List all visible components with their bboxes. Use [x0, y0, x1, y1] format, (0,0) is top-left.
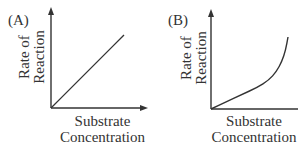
y-axis-arrow-icon — [48, 7, 54, 15]
y-axis-label-line1: Rate of — [17, 17, 32, 97]
data-line-a — [51, 35, 124, 108]
x-axis-label-line1: Substrate — [210, 113, 298, 129]
x-axis-label: Substrate Concentration — [210, 113, 298, 145]
y-axis-label: Rate of Reaction — [179, 18, 213, 98]
panel-a: (A) Rate of Reaction Substrate Concentra… — [0, 0, 150, 157]
panel-b: (B) Rate of Reaction Substrate Concentra… — [150, 0, 298, 157]
y-axis-arrow-icon — [208, 9, 214, 17]
y-axis-label-line2: Reaction — [32, 17, 47, 97]
y-axis-label: Rate of Reaction — [17, 17, 51, 97]
x-axis-label-line2: Concentration — [210, 129, 298, 145]
data-line-b — [211, 37, 288, 109]
x-axis-label: Substrate Concentration — [55, 113, 150, 145]
x-axis-label-line2: Concentration — [55, 129, 150, 145]
x-axis-label-line1: Substrate — [55, 113, 150, 129]
y-axis-label-line1: Rate of — [179, 18, 194, 98]
x-axis-arrow-icon — [140, 105, 148, 111]
y-axis-label-line2: Reaction — [194, 18, 209, 98]
